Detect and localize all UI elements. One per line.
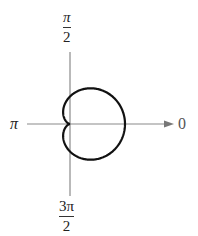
fraction-bar [59, 216, 74, 217]
label-three-half-pi-numerator: 3π [59, 199, 74, 214]
polar-graph [0, 0, 198, 236]
label-three-half-pi: 3π 2 [59, 199, 74, 234]
label-three-half-pi-denominator: 2 [63, 219, 71, 234]
label-half-pi-numerator: π [63, 10, 71, 25]
label-pi: π [10, 116, 18, 132]
label-half-pi-denominator: 2 [63, 30, 71, 45]
label-half-pi: π 2 [63, 10, 71, 45]
label-zero: 0 [178, 116, 186, 132]
fraction-bar [63, 27, 71, 28]
arrow-head-icon [164, 121, 174, 128]
